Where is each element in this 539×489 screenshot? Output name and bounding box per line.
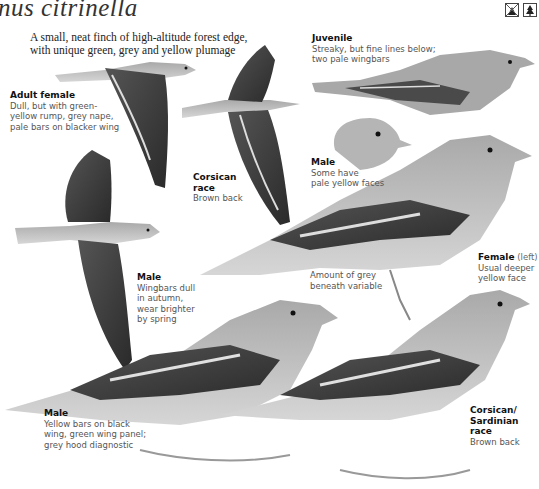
open-country-crossed-icon [505,3,519,17]
label-heading: Corsican [193,172,243,183]
label-female-left: Female (left) Usual deeper yellow face [478,252,538,284]
label-line: yellow face [478,273,538,284]
label-line: beneath variable [310,281,382,292]
label-line: two pale wingbars [312,54,436,65]
label-heading: Corsican/ [470,405,520,416]
label-adult-female: Adult female Dull, but with green- yello… [10,90,119,132]
label-male-perched: Male Yellow bars on black wing, green wi… [44,408,146,450]
label-line: Some have [311,168,384,179]
label-corsican-sardinian: Corsican/ Sardinian race Brown back [470,405,520,447]
label-male-flight: Male Wingbars dull in autumn, wear brigh… [137,272,195,325]
label-line: Brown back [470,437,520,448]
label-line: Yellow bars on black [44,419,146,430]
label-line: pale yellow faces [311,178,384,189]
intro-line: with unique green, grey and yellow pluma… [30,44,247,57]
label-heading: race [193,183,243,194]
label-line: Usual deeper [478,263,538,274]
label-heading: Male [44,408,146,419]
intro-line: A small, neat finch of high-altitude for… [30,31,247,44]
label-heading: race [470,426,520,437]
male-flight-illustration [15,150,160,370]
label-line: in autumn, [137,293,195,304]
label-heading: Male [311,157,384,168]
label-line: pale bars on blacker wing [10,122,119,133]
label-line: Wingbars dull [137,283,195,294]
label-grey-beneath: Amount of grey beneath variable [310,270,382,291]
label-heading: Juvenile [312,33,436,44]
label-line: Streaky, but fine lines below; [312,44,436,55]
label-line: wing, green wing panel; [44,429,146,440]
label-juvenile: Juvenile Streaky, but fine lines below; … [312,33,436,65]
label-line: Dull, but with green- [10,101,119,112]
label-heading: Female [478,252,515,262]
species-intro: A small, neat finch of high-altitude for… [30,31,247,57]
species-title: nus citrinella [0,0,138,22]
label-line: wear brighter [137,304,195,315]
label-line: Brown back [193,193,243,204]
label-heading: Sardinian [470,416,520,427]
label-line: Amount of grey [310,270,382,281]
label-heading: Adult female [10,90,119,101]
conifer-forest-icon [523,3,537,17]
label-line: grey hood diagnostic [44,440,146,451]
label-heading: Male [137,272,195,283]
label-heading-note: (left) [517,252,537,262]
label-line: yellow rump, grey nape, [10,111,119,122]
label-line: by spring [137,314,195,325]
label-male-face: Male Some have pale yellow faces [311,157,384,189]
label-corsican-race: Corsican race Brown back [193,172,243,204]
